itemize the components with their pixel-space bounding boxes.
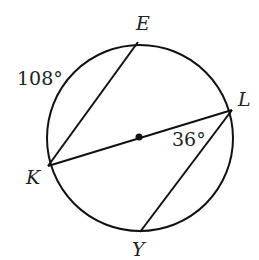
label-E: E [135, 12, 150, 34]
label-L: L [237, 88, 251, 110]
angle-measure-label: 36° [172, 128, 206, 150]
chord-KE [48, 42, 138, 166]
label-Y: Y [132, 238, 147, 260]
label-K: K [25, 166, 42, 188]
arc-measure-label: 108° [17, 67, 63, 89]
circle-diagram: E L K Y 108° 36° [0, 0, 259, 260]
center-point [136, 134, 143, 141]
